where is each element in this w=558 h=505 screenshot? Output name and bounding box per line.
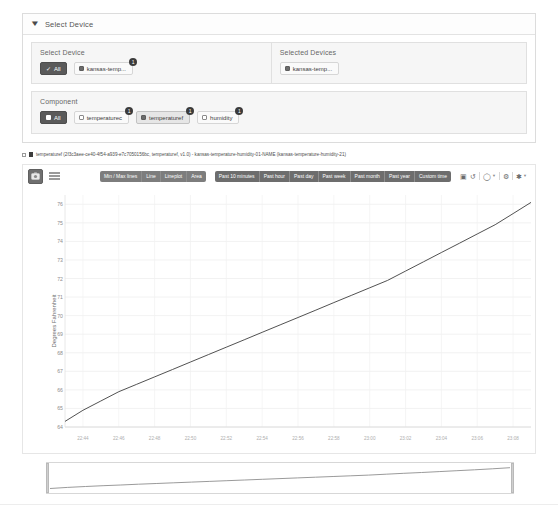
camera-icon[interactable] <box>28 169 43 184</box>
x-axis-tick: 23:02 <box>400 436 412 441</box>
toolbar-divider <box>479 172 480 180</box>
x-axis-tick: 23:08 <box>507 436 519 441</box>
accordion-header[interactable]: ▼ Select Device <box>23 14 535 35</box>
star-icon[interactable]: ✱▼ <box>516 173 527 180</box>
component-chip-badge: 1 <box>235 107 243 115</box>
x-axis-tick: 22:44 <box>77 436 89 441</box>
checkbox-icon <box>285 66 290 71</box>
x-axis-tick: 22:50 <box>185 436 197 441</box>
chart-toolbar: Min / Max lines Line Lineplot Area Past … <box>23 165 535 187</box>
x-axis-tick: 22:58 <box>328 436 340 441</box>
selected-devices-label: Selected Devices <box>280 49 518 56</box>
accordion-title: Select Device <box>45 20 93 29</box>
device-chip-kansas-temp[interactable]: kansas-temp... 1 <box>74 62 133 75</box>
x-axis-tick: 22:46 <box>113 436 125 441</box>
check-icon: ✓ <box>46 66 51 72</box>
refresh-icon[interactable]: ↺ <box>470 173 476 180</box>
x-axis-tick: 23:04 <box>436 436 448 441</box>
component-group: Component All temperaturec 1 temperature… <box>31 91 527 134</box>
component-chips: All temperaturec 1 temperaturef 1 <box>40 111 518 124</box>
chart-type-lineplot[interactable]: Lineplot <box>161 171 188 182</box>
select-device-label: Select Device <box>40 49 263 56</box>
device-chip-badge: 1 <box>129 58 137 66</box>
device-chip-label: kansas-temp... <box>87 66 126 72</box>
time-range-past-day[interactable]: Past day <box>290 171 318 182</box>
x-axis-tick: 23:06 <box>471 436 483 441</box>
gear-icon[interactable]: ⚙ <box>503 173 509 180</box>
square-icon <box>46 115 51 120</box>
series-checkbox-icon[interactable] <box>22 153 26 157</box>
time-range-past-week[interactable]: Past week <box>319 171 351 182</box>
time-range-custom-time[interactable]: Custom time <box>415 171 451 182</box>
component-chip-temperaturef[interactable]: temperaturef 1 <box>136 111 190 124</box>
toolbar-divider <box>499 172 500 180</box>
checkbox-icon <box>79 115 84 120</box>
selected-devices-chips: kansas-temp... <box>280 62 518 75</box>
x-axis-tick: 22:54 <box>256 436 268 441</box>
range-handle-left[interactable] <box>46 463 49 493</box>
x-axis-ticks: 22:4422:4622:4822:5022:5222:5422:5622:58… <box>23 187 537 455</box>
range-navigator[interactable] <box>46 462 514 494</box>
select-device-panel: ▼ Select Device Select Device ✓ All kans <box>22 13 536 143</box>
component-chip-label: temperaturef <box>149 115 183 121</box>
chart-toolbar-left <box>28 169 60 184</box>
series-color-swatch <box>29 152 33 157</box>
select-device-all-label: All <box>54 66 61 72</box>
select-device-chips: ✓ All kansas-temp... 1 <box>40 62 263 75</box>
component-chip-humidity[interactable]: humidity 1 <box>197 111 239 124</box>
chart-type-area[interactable]: Area <box>187 171 206 182</box>
component-all-label: All <box>54 115 61 121</box>
chart-type-segment-group: Min / Max lines Line Lineplot Area <box>100 171 206 182</box>
list-icon[interactable] <box>49 171 60 182</box>
component-chip-label: humidity <box>210 115 232 121</box>
camera-icon[interactable]: ▣ <box>460 173 467 180</box>
plot-area[interactable]: Degrees Fahrenheit 646566676869707172737… <box>23 187 537 455</box>
chart-type-line[interactable]: Line <box>142 171 160 182</box>
chart-type-minmax[interactable]: Min / Max lines <box>100 171 142 182</box>
component-chip-badge: 1 <box>125 107 133 115</box>
checkbox-icon <box>141 115 146 120</box>
select-device-group: Select Device ✓ All kansas-temp... 1 <box>32 43 272 83</box>
x-axis-tick: 22:56 <box>292 436 304 441</box>
selected-devices-group: Selected Devices kansas-temp... <box>272 43 526 83</box>
select-device-all-button[interactable]: ✓ All <box>40 62 67 75</box>
checkbox-icon <box>79 66 84 71</box>
accordion-body: Select Device ✓ All kansas-temp... 1 <box>23 35 535 142</box>
x-axis-tick: 23:00 <box>364 436 376 441</box>
range-handle-right[interactable] <box>511 463 514 493</box>
component-all-button[interactable]: All <box>40 111 67 124</box>
series-header[interactable]: temperaturef (2f3c3aee-ce40-4f54-a939-e7… <box>22 152 536 157</box>
toolbar-divider <box>512 172 513 180</box>
app-page: ▼ Select Device Select Device ✓ All kans <box>0 0 558 505</box>
x-axis-tick: 22:52 <box>221 436 233 441</box>
component-chip-label: temperaturec <box>87 115 122 121</box>
time-range-past-hour[interactable]: Past hour <box>260 171 290 182</box>
component-chip-badge: 1 <box>186 107 194 115</box>
selected-device-chip-kansas-temp[interactable]: kansas-temp... <box>280 62 339 75</box>
x-axis-tick: 22:48 <box>149 436 161 441</box>
chart-card: Min / Max lines Line Lineplot Area Past … <box>22 164 536 454</box>
component-chip-temperaturec[interactable]: temperaturec 1 <box>74 111 129 124</box>
range-navigator-series <box>46 462 514 494</box>
time-range-past-month[interactable]: Past month <box>351 171 385 182</box>
device-groups: Select Device ✓ All kansas-temp... 1 <box>31 42 527 84</box>
time-range-segment-group: Past 10 minutes Past hour Past day Past … <box>215 171 451 182</box>
chevron-down-icon: ▼ <box>30 20 40 28</box>
time-range-past-10-minutes[interactable]: Past 10 minutes <box>215 171 260 182</box>
checkbox-icon <box>202 115 207 120</box>
time-range-past-year[interactable]: Past year <box>385 171 415 182</box>
component-label: Component <box>40 98 518 105</box>
zoom-reset-icon[interactable]: ◯▼ <box>483 173 496 180</box>
selected-device-chip-label: kansas-temp... <box>293 66 332 72</box>
series-header-text: temperaturef (2f3c3aee-ce40-4f54-a939-e7… <box>36 152 346 157</box>
chart-toolbar-icons: ▣ ↺ ◯▼ ⚙ ✱▼ <box>460 172 530 180</box>
